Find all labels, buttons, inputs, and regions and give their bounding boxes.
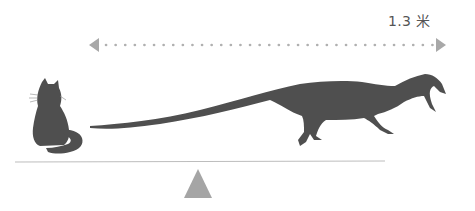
arrow-right-head-icon: [436, 38, 446, 52]
fulcrum-triangle-icon: [184, 169, 212, 198]
scene: [0, 0, 475, 211]
arrow-left-head-icon: [89, 38, 99, 52]
dinosaur-silhouette-icon: [90, 74, 446, 146]
length-arrow: [89, 38, 446, 52]
seesaw-beam: [15, 161, 385, 162]
cat-silhouette-icon: [29, 78, 83, 154]
